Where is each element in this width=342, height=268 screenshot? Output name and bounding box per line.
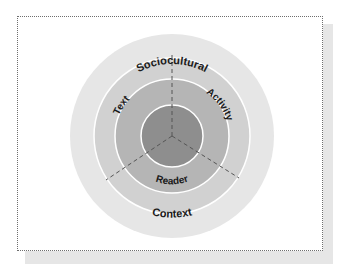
reading-model-diagram: Sociocultural Context Text Activity Read…	[0, 0, 342, 268]
